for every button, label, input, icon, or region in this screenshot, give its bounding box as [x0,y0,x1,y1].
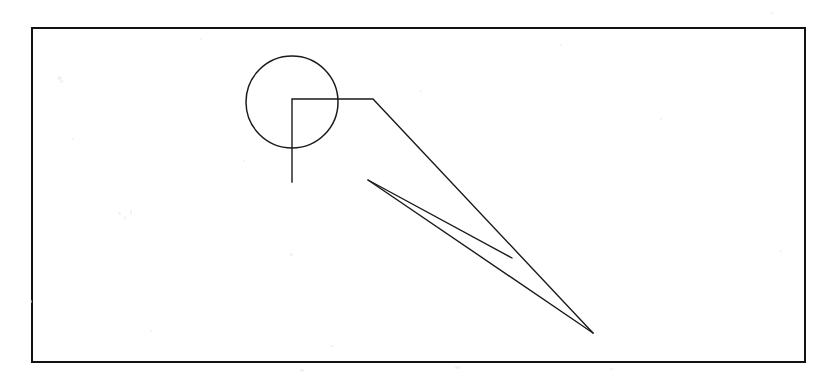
page-background [0,0,831,380]
figure-root [0,0,831,380]
line-drawing-canvas [0,0,831,380]
